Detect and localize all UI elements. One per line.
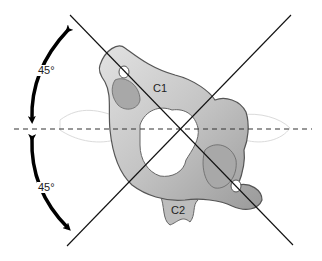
angle-label-upper: 45°: [37, 65, 56, 76]
c1-label: C1: [153, 83, 167, 94]
c2-label: C2: [171, 205, 185, 216]
angle-label-lower: 45°: [37, 182, 56, 193]
diagram: 45° 45° C1 C2: [0, 0, 322, 261]
